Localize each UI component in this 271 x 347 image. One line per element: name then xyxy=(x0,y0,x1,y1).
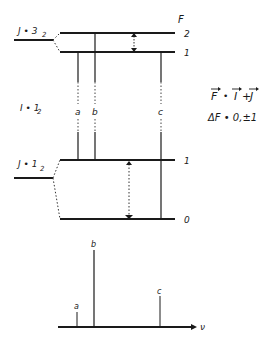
svg-text:•: • xyxy=(223,91,228,101)
label-lower-f0: 0 xyxy=(184,215,190,225)
svg-text:a: a xyxy=(74,302,79,311)
upper-split-connector-bottom xyxy=(53,40,60,52)
nuclear-spin-label: I • 1 2 xyxy=(20,103,42,116)
transition-a: a xyxy=(75,52,81,160)
upper-split-connector-top xyxy=(53,33,60,40)
svg-text:a: a xyxy=(75,107,81,117)
label-upper-f2: 2 xyxy=(184,29,190,39)
nu-axis-label: ν xyxy=(200,322,205,332)
lower-split-connector-bottom xyxy=(53,178,60,219)
svg-text:c: c xyxy=(158,107,163,117)
label-lower-f1: 1 xyxy=(184,156,190,166)
svg-text:F: F xyxy=(211,90,218,103)
lower-arrow-head-top xyxy=(126,161,132,165)
svg-text:J • 1: J • 1 xyxy=(16,159,37,169)
coupling-equation: F • I + J xyxy=(211,87,259,103)
lower-split-connector-top xyxy=(53,160,60,178)
axis-arrow-icon xyxy=(191,324,197,330)
svg-text:2: 2 xyxy=(37,108,42,116)
j32-label: J • 3 2 xyxy=(16,26,47,39)
selection-rule: ΔF • 0,±1 xyxy=(207,112,257,123)
transition-c: c xyxy=(158,52,163,219)
svg-text:c: c xyxy=(157,287,162,296)
svg-text:J • 3: J • 3 xyxy=(16,26,38,36)
svg-text:b: b xyxy=(91,240,96,249)
spectrum: ν a b c xyxy=(58,240,205,332)
svg-text:b: b xyxy=(92,107,98,117)
svg-text:2: 2 xyxy=(40,165,45,173)
label-upper-f1: 1 xyxy=(184,48,190,58)
hyperfine-diagram: F J • 3 2 2 1 I • 1 2 a b c xyxy=(0,0,271,347)
svg-text:I: I xyxy=(234,90,237,103)
svg-text:2: 2 xyxy=(42,31,47,39)
f-column-header: F xyxy=(178,14,184,25)
j12-label: J • 1 2 xyxy=(16,159,45,173)
